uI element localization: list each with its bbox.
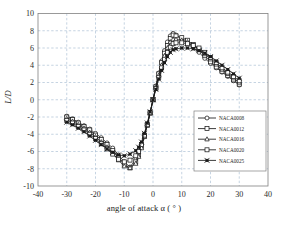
legend-label: NACA0020 xyxy=(219,147,244,153)
y-tick-label: 2 xyxy=(30,78,34,87)
data-point-marker xyxy=(117,157,121,161)
x-tick-label: 10 xyxy=(178,190,186,199)
y-tick-label: 10 xyxy=(26,9,34,18)
data-point-marker xyxy=(122,160,126,164)
legend-item[interactable]: NACA0012 xyxy=(198,126,244,132)
x-tick-label: 40 xyxy=(264,190,272,199)
x-tick-label: -30 xyxy=(61,190,72,199)
data-point-marker xyxy=(180,41,184,45)
data-point-marker xyxy=(186,42,190,46)
legend-item[interactable]: NACA0025 xyxy=(198,158,244,164)
legend-label: NACA0016 xyxy=(219,136,244,142)
x-tick-label: -40 xyxy=(33,190,44,199)
legend-label: NACA0025 xyxy=(219,158,244,164)
data-point-marker xyxy=(174,41,178,45)
line-chart: -40-30-20-10010203040 1086420-2-4-6-8-10… xyxy=(0,0,288,228)
x-tick-label: 30 xyxy=(235,190,243,199)
data-point-marker xyxy=(205,116,209,120)
y-tick-label: 8 xyxy=(30,27,34,36)
y-tick-label: 4 xyxy=(30,61,34,70)
legend-item[interactable]: NACA0020 xyxy=(198,147,244,153)
data-point-marker xyxy=(205,148,209,152)
chart-legend[interactable]: NACA0008NACA0012NACA0016NACA0020NACA0025 xyxy=(194,111,266,171)
x-tick-label: -20 xyxy=(90,190,101,199)
x-axis-title: angle of attack α ( ° ) xyxy=(0,203,288,213)
legend-label: NACA0012 xyxy=(219,126,244,132)
y-axis-title: L/D xyxy=(3,73,13,121)
x-tick-label: 0 xyxy=(151,190,155,199)
data-point-marker xyxy=(205,127,209,131)
data-point-marker xyxy=(128,158,132,162)
chart-figure: -40-30-20-10010203040 1086420-2-4-6-8-10… xyxy=(0,0,288,228)
data-point-marker xyxy=(191,43,195,47)
y-tick-label: -8 xyxy=(27,165,34,174)
x-tick-labels: -40-30-20-10010203040 xyxy=(33,190,272,199)
legend-label: NACA0008 xyxy=(219,115,244,121)
y-tick-label: -10 xyxy=(23,182,34,191)
y-tick-label: -6 xyxy=(27,147,34,156)
y-tick-label: -2 xyxy=(27,113,34,122)
y-tick-label: -4 xyxy=(27,130,34,139)
y-tick-label: 0 xyxy=(30,96,34,105)
x-tick-label: 20 xyxy=(207,190,215,199)
data-point-marker xyxy=(134,154,138,158)
x-tick-label: -10 xyxy=(119,190,130,199)
y-tick-label: 6 xyxy=(30,44,34,53)
